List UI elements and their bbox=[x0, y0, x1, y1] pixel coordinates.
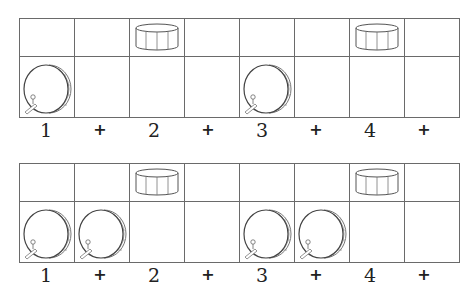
cell bbox=[75, 57, 130, 118]
cell bbox=[130, 164, 185, 202]
cell bbox=[20, 19, 75, 57]
count-label: + bbox=[289, 264, 343, 286]
bass-row bbox=[20, 57, 460, 118]
count-label: 3 bbox=[235, 119, 289, 141]
count-labels-1: 1 + 2 + 3 + 4 + bbox=[19, 119, 451, 141]
count-label: 2 bbox=[127, 119, 181, 141]
cell bbox=[240, 57, 295, 118]
cell bbox=[185, 164, 240, 202]
snare-drum-icon bbox=[134, 22, 180, 54]
snare-row bbox=[20, 164, 460, 202]
cell bbox=[20, 164, 75, 202]
cell bbox=[350, 202, 405, 263]
bass-drum-icon bbox=[21, 206, 73, 262]
cell bbox=[405, 202, 460, 263]
cell bbox=[295, 164, 350, 202]
cell bbox=[295, 202, 350, 263]
count-label: + bbox=[181, 119, 235, 141]
count-label: + bbox=[73, 119, 127, 141]
count-label: + bbox=[289, 119, 343, 141]
count-label: + bbox=[181, 264, 235, 286]
cell bbox=[350, 164, 405, 202]
cell bbox=[185, 57, 240, 118]
cell bbox=[75, 19, 130, 57]
snare-drum-icon bbox=[354, 22, 400, 54]
count-label: 1 bbox=[19, 119, 73, 141]
count-label: 4 bbox=[343, 119, 397, 141]
cell bbox=[295, 19, 350, 57]
rhythm-grid-1 bbox=[19, 18, 451, 118]
bass-drum-icon bbox=[296, 206, 348, 262]
snare-drum-icon bbox=[354, 167, 400, 199]
cell bbox=[130, 57, 185, 118]
count-label: + bbox=[397, 264, 451, 286]
bass-drum-icon bbox=[241, 61, 293, 117]
count-label: + bbox=[397, 119, 451, 141]
cell bbox=[240, 19, 295, 57]
cell bbox=[130, 19, 185, 57]
rhythm-grid-2 bbox=[19, 163, 451, 263]
count-label: + bbox=[73, 264, 127, 286]
cell bbox=[20, 202, 75, 263]
count-label: 3 bbox=[235, 264, 289, 286]
count-label: 1 bbox=[19, 264, 73, 286]
bass-drum-icon bbox=[76, 206, 128, 262]
count-label: 2 bbox=[127, 264, 181, 286]
snare-row bbox=[20, 19, 460, 57]
cell bbox=[405, 164, 460, 202]
bass-drum-icon bbox=[21, 61, 73, 117]
cell bbox=[130, 202, 185, 263]
cell bbox=[350, 57, 405, 118]
cell bbox=[75, 202, 130, 263]
cell bbox=[295, 57, 350, 118]
count-labels-2: 1 + 2 + 3 + 4 + bbox=[19, 264, 451, 286]
cell bbox=[185, 202, 240, 263]
cell bbox=[75, 164, 130, 202]
snare-drum-icon bbox=[134, 167, 180, 199]
cell bbox=[20, 57, 75, 118]
cell bbox=[405, 19, 460, 57]
bass-drum-icon bbox=[241, 206, 293, 262]
cell bbox=[405, 57, 460, 118]
cell bbox=[240, 164, 295, 202]
count-label: 4 bbox=[343, 264, 397, 286]
bass-row bbox=[20, 202, 460, 263]
cell bbox=[350, 19, 405, 57]
cell bbox=[240, 202, 295, 263]
cell bbox=[185, 19, 240, 57]
